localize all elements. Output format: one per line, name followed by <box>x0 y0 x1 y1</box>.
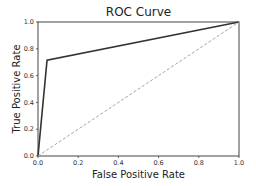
y-tick-label: 0.4 <box>24 99 34 107</box>
x-tick-label: 0.0 <box>33 159 43 167</box>
chart-title: ROC Curve <box>106 5 171 19</box>
roc-chart: ROC Curve 0.00.20.40.60.81.0 0.00.20.40.… <box>0 0 256 186</box>
y-tick-label: 0.0 <box>24 152 34 160</box>
x-tick-label: 0.2 <box>73 159 83 167</box>
x-axis-ticks: 0.00.20.40.60.81.0 <box>33 156 244 167</box>
x-tick-label: 0.6 <box>153 159 163 167</box>
y-tick-label: 0.2 <box>24 125 34 133</box>
y-tick-label: 1.0 <box>24 18 34 26</box>
plot-area <box>38 22 239 156</box>
x-axis-label: False Positive Rate <box>92 169 185 180</box>
x-tick-label: 0.8 <box>194 159 204 167</box>
y-axis-label: True Positive Rate <box>11 44 22 134</box>
x-tick-label: 0.4 <box>113 159 123 167</box>
y-tick-label: 0.8 <box>24 45 34 53</box>
y-axis-ticks: 0.00.20.40.60.81.0 <box>24 18 38 160</box>
x-tick-label: 1.0 <box>234 159 244 167</box>
y-tick-label: 0.6 <box>24 72 34 80</box>
